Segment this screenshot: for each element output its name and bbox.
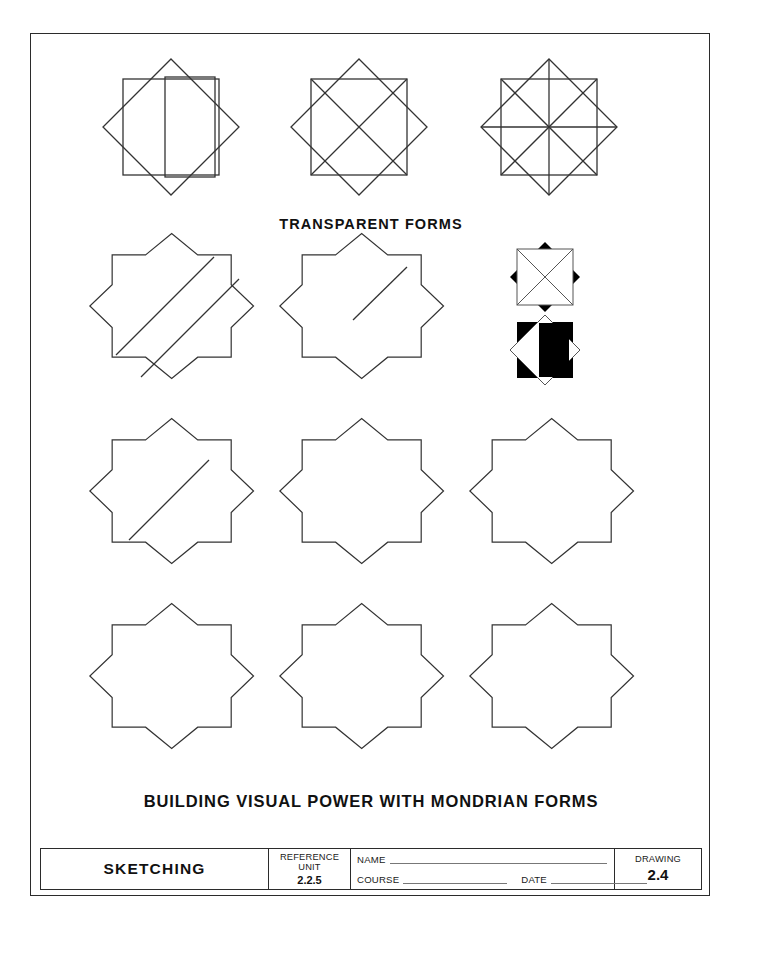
- date-label: DATE: [521, 874, 551, 885]
- figure-star-with-short-diagonal: [93, 422, 283, 572]
- figure-blank-star-outline: [283, 607, 473, 757]
- caption-mondrian-forms: BUILDING VISUAL POWER WITH MONDRIAN FORM…: [31, 792, 711, 811]
- course-label: COURSE: [357, 874, 403, 885]
- caption-transparent-forms: TRANSPARENT FORMS: [31, 216, 711, 232]
- figure-blank-star-outline: [93, 607, 283, 757]
- figure-blank-star-outline: [473, 422, 663, 572]
- course-date-field-row: COURSE DATE: [357, 869, 607, 889]
- name-field-row: NAME: [357, 849, 607, 869]
- solid-star-points-study: [510, 242, 580, 312]
- figure-transparent-star-with-full-radials: [473, 52, 663, 202]
- title-block-student-fields-cell: NAME COURSE DATE: [351, 849, 615, 889]
- title-block: SKETCHING REFERENCE UNIT 2.2.5 NAME COUR…: [40, 848, 702, 890]
- drawing-number-value: 2.4: [648, 867, 669, 884]
- figure-transparent-star-with-rectangle: [93, 52, 283, 202]
- course-input-line[interactable]: [403, 874, 507, 884]
- solid-square-diamond-bar-study: [510, 315, 580, 385]
- figure-blank-star-outline: [283, 422, 473, 572]
- reference-unit-label-line2: UNIT: [298, 862, 321, 872]
- drawing-label: DRAWING: [635, 854, 681, 864]
- name-input-line[interactable]: [390, 854, 607, 864]
- reference-unit-value: 2.2.5: [297, 875, 321, 887]
- figure-star-with-half-diagonal: [283, 237, 473, 387]
- worksheet-sheet: TRANSPARENT FORMS BUILDING VISUAL POWER …: [30, 33, 710, 896]
- figure-transparent-star-with-x-diagonals: [283, 52, 473, 202]
- figure-blank-star-outline: [473, 607, 663, 757]
- name-label: NAME: [357, 854, 390, 865]
- subject-label: SKETCHING: [103, 860, 205, 878]
- reference-unit-label-line1: REFERENCE: [280, 852, 339, 862]
- title-block-reference-unit-cell: REFERENCE UNIT 2.2.5: [269, 849, 351, 889]
- figure-solid-star-pair: [473, 237, 663, 387]
- figure-grid: [31, 34, 711, 814]
- title-block-drawing-number-cell: DRAWING 2.4: [615, 849, 701, 889]
- figure-star-with-diagonal-band: [93, 237, 283, 387]
- title-block-subject-cell: SKETCHING: [41, 849, 269, 889]
